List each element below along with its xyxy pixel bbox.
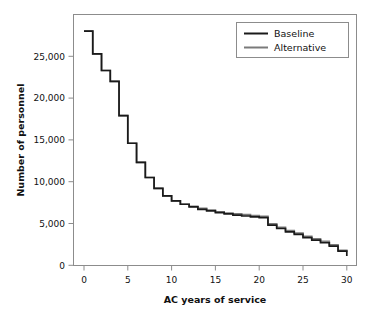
x-axis-title: AC years of service <box>164 294 267 305</box>
x-tick-label: 10 <box>166 275 178 285</box>
y-tick-label: 15,000 <box>34 135 66 145</box>
y-tick-label: 20,000 <box>34 93 66 103</box>
x-tick-label: 15 <box>210 275 221 285</box>
y-tick-label: 25,000 <box>34 52 66 62</box>
y-tick-label: 0 <box>59 261 65 271</box>
x-tick-label: 20 <box>253 275 265 285</box>
y-tick-label: 10,000 <box>34 177 66 187</box>
x-tick-label: 30 <box>341 275 353 285</box>
legend-label-baseline: Baseline <box>274 28 314 39</box>
x-tick-label: 25 <box>297 275 308 285</box>
y-tick-label: 5,000 <box>39 219 65 229</box>
legend-label-alternative: Alternative <box>274 42 326 53</box>
x-tick-label: 0 <box>81 275 87 285</box>
personnel-by-years-of-service-chart: 0 5,000 10,000 15,000 20,000 25,000 0 5 … <box>0 0 368 321</box>
chart-figure: 0 5,000 10,000 15,000 20,000 25,000 0 5 … <box>0 0 368 321</box>
y-axis-title: Number of personnel <box>15 83 26 196</box>
chart-legend: Baseline Alternative <box>237 23 349 58</box>
x-tick-label: 5 <box>125 275 131 285</box>
